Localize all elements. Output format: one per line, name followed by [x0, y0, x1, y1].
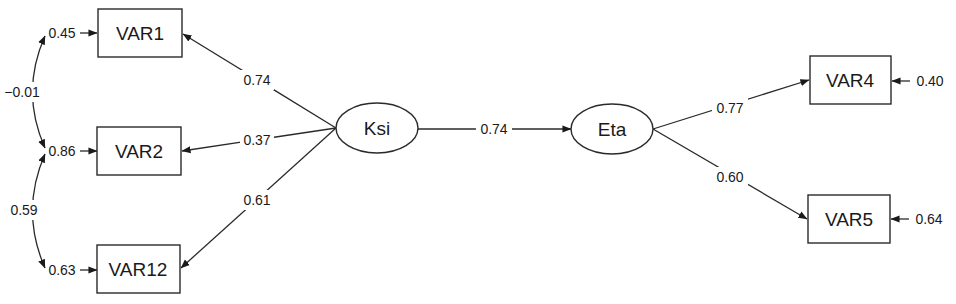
node-label-eta: Eta	[598, 119, 627, 140]
error-value-var2: 0.86	[48, 143, 75, 159]
node-label-ksi: Ksi	[364, 118, 390, 139]
covariance-value-var2-var12: 0.59	[10, 202, 37, 218]
node-ksi: Ksi	[336, 103, 418, 153]
node-var12: VAR12	[97, 245, 180, 293]
error-var4: 0.40	[892, 73, 944, 89]
node-var4: VAR4	[810, 56, 891, 104]
error-var5: 0.64	[891, 211, 943, 227]
path-eta-var5: 0.60	[653, 129, 807, 219]
covariance-var2-var12: 0.59	[6, 154, 45, 268]
node-label-var12: VAR12	[109, 259, 168, 280]
node-var2: VAR2	[97, 127, 181, 175]
path-ksi-var2: 0.37	[182, 128, 336, 151]
coef-eta-var4: 0.77	[716, 100, 743, 116]
path-ksi-eta: 0.74	[418, 119, 571, 139]
error-var12: 0.63	[48, 262, 97, 278]
path-diagram: 0.74 0.37 0.61 0.74 0.77 0.60 0.45 0.86 …	[0, 0, 956, 304]
error-value-var5: 0.64	[915, 211, 942, 227]
node-label-var2: VAR2	[115, 141, 163, 162]
error-value-var1: 0.45	[48, 25, 75, 41]
node-label-var4: VAR4	[826, 70, 875, 91]
path-ksi-var1: 0.74	[183, 34, 336, 128]
path-eta-var4: 0.77	[653, 80, 809, 129]
coef-ksi-eta: 0.74	[480, 121, 507, 137]
node-var5: VAR5	[808, 195, 890, 243]
node-eta: Eta	[571, 104, 653, 154]
node-label-var5: VAR5	[825, 209, 873, 230]
coef-ksi-var2: 0.37	[243, 132, 270, 148]
node-var1: VAR1	[98, 9, 182, 57]
coef-eta-var5: 0.60	[716, 169, 743, 185]
error-var1: 0.45	[48, 25, 97, 41]
coef-ksi-var1: 0.74	[243, 72, 270, 88]
coef-ksi-var12: 0.61	[243, 192, 270, 208]
covariance-var1-var2: −0.01	[4, 36, 45, 148]
node-label-var1: VAR1	[116, 23, 164, 44]
error-var2: 0.86	[48, 143, 97, 159]
error-value-var12: 0.63	[48, 262, 75, 278]
error-value-var4: 0.40	[916, 73, 943, 89]
covariance-value-var1-var2: −0.01	[4, 84, 40, 100]
